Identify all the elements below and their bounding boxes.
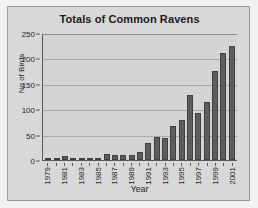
x-tick-mark bbox=[72, 163, 73, 166]
x-tick-mark bbox=[131, 163, 132, 166]
x-tick-mark bbox=[47, 163, 48, 166]
x-tick-mark bbox=[123, 163, 124, 166]
bar-slot bbox=[52, 34, 60, 160]
bar-slot bbox=[203, 34, 211, 160]
bar-slot bbox=[178, 34, 186, 160]
x-tick-mark bbox=[139, 163, 140, 166]
x-tick-mark bbox=[64, 163, 65, 166]
bar bbox=[179, 120, 185, 160]
chart-title: Totals of Common Ravens bbox=[8, 13, 251, 25]
bar bbox=[120, 155, 126, 160]
bar bbox=[70, 158, 76, 160]
bar bbox=[87, 158, 93, 160]
bar bbox=[195, 113, 201, 160]
x-tick-mark bbox=[156, 163, 157, 166]
bar-slot bbox=[152, 34, 160, 160]
y-tick-label: 250 bbox=[22, 30, 35, 39]
bar-slot bbox=[111, 34, 119, 160]
bar-slot bbox=[102, 34, 110, 160]
bar bbox=[170, 126, 176, 160]
x-tick-mark bbox=[56, 163, 57, 166]
bar-slot bbox=[119, 34, 127, 160]
x-tick-label: 1987 bbox=[110, 167, 119, 185]
y-tick-label: 0 bbox=[31, 157, 35, 166]
y-tick-mark bbox=[36, 84, 40, 85]
bar bbox=[112, 155, 118, 160]
x-axis-label: Year bbox=[42, 184, 237, 194]
bar bbox=[162, 138, 168, 160]
bar-series bbox=[43, 34, 237, 160]
x-tick-mark bbox=[215, 163, 216, 166]
x-tick-mark bbox=[89, 163, 90, 166]
x-tick-mark bbox=[207, 163, 208, 166]
bar-slot bbox=[228, 34, 236, 160]
x-tick-label: 1999 bbox=[211, 167, 220, 185]
x-tick-label: 1995 bbox=[177, 167, 186, 185]
bar-slot bbox=[161, 34, 169, 160]
y-tick-mark bbox=[36, 135, 40, 136]
bar bbox=[45, 158, 51, 160]
y-tick-mark bbox=[36, 34, 40, 35]
x-tick-label: 1985 bbox=[93, 167, 102, 185]
x-tick-label: 1993 bbox=[160, 167, 169, 185]
bar-slot bbox=[61, 34, 69, 160]
bar bbox=[137, 152, 143, 160]
bar-slot bbox=[136, 34, 144, 160]
bar bbox=[154, 137, 160, 160]
x-tick-mark bbox=[106, 163, 107, 166]
bar-slot bbox=[194, 34, 202, 160]
bar-slot bbox=[127, 34, 135, 160]
bar bbox=[104, 154, 110, 160]
x-tick-mark bbox=[181, 163, 182, 166]
y-tick-mark bbox=[36, 110, 40, 111]
y-axis-ticks: 050100150200250 bbox=[8, 34, 40, 161]
bar-slot bbox=[219, 34, 227, 160]
bar bbox=[212, 71, 218, 160]
y-tick-label: 200 bbox=[22, 55, 35, 64]
x-tick-label: 1989 bbox=[127, 167, 136, 185]
y-tick-label: 100 bbox=[22, 106, 35, 115]
x-tick-label: 1981 bbox=[59, 167, 68, 185]
chart-figure: Totals of Common Ravens No of Birds 0501… bbox=[0, 0, 258, 208]
bar bbox=[129, 155, 135, 160]
x-tick-mark bbox=[223, 163, 224, 166]
x-tick-mark bbox=[190, 163, 191, 166]
bar-slot bbox=[211, 34, 219, 160]
bar-slot bbox=[69, 34, 77, 160]
bar bbox=[95, 158, 101, 160]
x-tick-mark bbox=[165, 163, 166, 166]
y-tick-label: 150 bbox=[22, 80, 35, 89]
x-tick-mark bbox=[173, 163, 174, 166]
bar-slot bbox=[144, 34, 152, 160]
bar-slot bbox=[44, 34, 52, 160]
x-tick-label: 1983 bbox=[76, 167, 85, 185]
plot-area bbox=[42, 34, 237, 161]
x-tick-label: 1997 bbox=[194, 167, 203, 185]
x-tick-label: 1979 bbox=[43, 167, 52, 185]
bar bbox=[79, 158, 85, 160]
y-tick-mark bbox=[36, 59, 40, 60]
bar bbox=[187, 95, 193, 160]
bar bbox=[229, 46, 235, 160]
x-tick-mark bbox=[81, 163, 82, 166]
chart-frame: Totals of Common Ravens No of Birds 0501… bbox=[7, 6, 250, 201]
x-tick-mark bbox=[114, 163, 115, 166]
bar bbox=[145, 143, 151, 160]
bar-slot bbox=[169, 34, 177, 160]
bar-slot bbox=[77, 34, 85, 160]
bar bbox=[220, 53, 226, 160]
bar-slot bbox=[186, 34, 194, 160]
y-tick-label: 50 bbox=[26, 131, 35, 140]
bar bbox=[62, 156, 68, 160]
bar bbox=[54, 158, 60, 160]
x-tick-mark bbox=[148, 163, 149, 166]
y-tick-mark bbox=[36, 161, 40, 162]
x-tick-mark bbox=[198, 163, 199, 166]
x-tick-mark bbox=[232, 163, 233, 166]
bar-slot bbox=[94, 34, 102, 160]
bar bbox=[204, 102, 210, 160]
bar-slot bbox=[86, 34, 94, 160]
x-tick-label: 1991 bbox=[143, 167, 152, 185]
x-tick-label: 2001 bbox=[227, 167, 236, 185]
x-tick-mark bbox=[98, 163, 99, 166]
